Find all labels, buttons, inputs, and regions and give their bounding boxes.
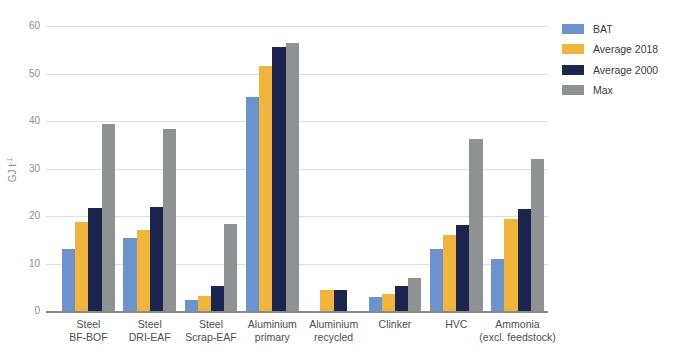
bar-bat-steel-scrap-eaf <box>185 300 198 311</box>
bar-average-2000-ammonia-excl-feedstock <box>518 209 531 311</box>
legend-swatch-max <box>562 85 584 95</box>
bar-max-steel-scrap-eaf <box>224 224 237 311</box>
bar-bat-clinker <box>369 297 382 311</box>
bar-average-2000-aluminium-primary <box>272 47 285 311</box>
legend-item-average-2000: Average 2000 <box>562 64 658 76</box>
legend-swatch-bat <box>562 24 584 34</box>
legend-label-average-2018: Average 2018 <box>593 43 658 55</box>
legend-item-average-2018: Average 2018 <box>562 43 658 55</box>
bar-average-2000-hvc <box>456 225 469 311</box>
category-label-line2: recycled <box>279 331 389 344</box>
bar-average-2000-clinker <box>395 286 408 311</box>
bar-average-2018-aluminium-recycled <box>320 290 333 311</box>
y-tick-label-20: 20 <box>12 210 40 222</box>
bar-bat-steel-dri-eaf <box>123 238 136 311</box>
y-tick-label-0: 0 <box>12 305 40 317</box>
bar-average-2018-steel-bf-bof <box>75 222 88 311</box>
bar-bat-hvc <box>430 249 443 311</box>
category-label-line1: Ammonia <box>463 318 573 331</box>
legend-label-average-2000: Average 2000 <box>593 64 658 76</box>
legend-item-max: Max <box>562 84 613 96</box>
bar-average-2000-steel-bf-bof <box>88 208 101 311</box>
bar-average-2000-steel-dri-eaf <box>150 207 163 311</box>
bar-average-2000-steel-scrap-eaf <box>211 286 224 311</box>
bar-average-2018-steel-dri-eaf <box>137 230 150 311</box>
bar-max-steel-bf-bof <box>102 124 115 311</box>
bar-average-2018-aluminium-primary <box>259 66 272 311</box>
y-tick-label-40: 40 <box>12 115 40 127</box>
legend-label-max: Max <box>593 84 613 96</box>
legend-swatch-average-2018 <box>562 44 584 54</box>
category-label-ammonia-excl-feedstock: Ammonia(excl. feedstock) <box>463 318 573 344</box>
y-tick-label-60: 60 <box>12 20 40 32</box>
bar-bat-steel-bf-bof <box>62 249 75 311</box>
bar-max-steel-dri-eaf <box>163 129 176 311</box>
bar-chart-figure: GJ t-1 0102030405060 SteelBF-BOFSteelDRI… <box>0 0 673 358</box>
bar-average-2018-steel-scrap-eaf <box>198 296 211 311</box>
bar-max-hvc <box>469 139 482 311</box>
bar-average-2018-hvc <box>443 235 456 311</box>
bar-average-2018-ammonia-excl-feedstock <box>504 219 517 311</box>
legend-swatch-average-2000 <box>562 65 584 75</box>
y-tick-label-10: 10 <box>12 258 40 270</box>
legend-item-bat: BAT <box>562 23 613 35</box>
bar-max-clinker <box>408 278 421 311</box>
bar-max-ammonia-excl-feedstock <box>531 159 544 311</box>
bar-average-2000-aluminium-recycled <box>334 290 347 311</box>
bar-average-2018-clinker <box>382 294 395 311</box>
category-label-line2: (excl. feedstock) <box>463 331 573 344</box>
bar-bat-aluminium-primary <box>246 97 259 311</box>
y-tick-label-30: 30 <box>12 163 40 175</box>
y-tick-label-50: 50 <box>12 68 40 80</box>
gridline-60 <box>46 26 548 27</box>
bar-bat-ammonia-excl-feedstock <box>491 259 504 311</box>
bar-max-aluminium-primary <box>286 43 299 311</box>
legend-label-bat: BAT <box>593 23 613 35</box>
x-axis-line <box>46 311 548 313</box>
